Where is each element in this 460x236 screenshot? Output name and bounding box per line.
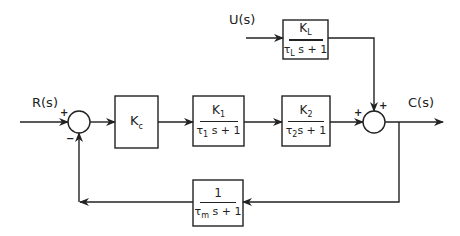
disturbance-signal-label: U(s)	[229, 13, 255, 26]
load-block: KL τL s + 1	[283, 20, 328, 59]
sum2-plus-sign-left: +	[354, 108, 362, 118]
process1-block: K1 τ1 s + 1	[193, 96, 244, 146]
process2-block: K2 τ2s + 1	[282, 96, 330, 146]
summing-junction-1	[68, 111, 90, 133]
controller-block: Kc	[115, 96, 158, 148]
block-diagram: R(s) U(s) C(s) + − + + Kc K1 τ1 s + 1 K2…	[0, 0, 460, 236]
sum1-plus-sign: +	[60, 108, 68, 118]
summing-junction-2	[363, 111, 385, 133]
output-signal-label: C(s)	[408, 96, 434, 109]
sum2-plus-sign-top: +	[379, 101, 387, 111]
measurement-block: 1 τm s + 1	[193, 180, 243, 226]
input-signal-label: R(s)	[32, 96, 58, 109]
sum1-minus-sign: −	[66, 134, 74, 144]
